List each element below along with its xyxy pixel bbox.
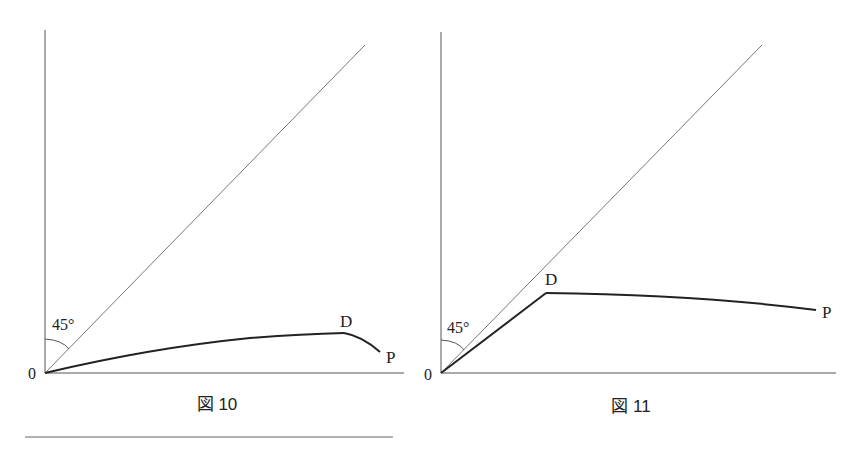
- curve-d-to-p: [344, 333, 380, 352]
- origin-label: 0: [28, 365, 36, 382]
- point-d-label: D: [545, 270, 557, 289]
- figure-caption: 図 10: [197, 395, 238, 414]
- figure-10: 0 45° D P 図 10: [28, 30, 404, 414]
- diagram-canvas: 0 45° D P 図 10 0 45° D P 図 11: [0, 0, 866, 449]
- angle-arc: [441, 340, 464, 350]
- curve-d-to-p: [546, 293, 816, 310]
- curve-0-to-d: [45, 333, 344, 373]
- diagonal-45-line: [441, 45, 762, 373]
- angle-label: 45°: [52, 316, 74, 333]
- figure-11: 0 45° D P 図 11: [424, 32, 836, 416]
- angle-arc: [45, 339, 69, 349]
- angle-label: 45°: [447, 319, 469, 336]
- figure-caption: 図 11: [611, 397, 650, 416]
- point-p-label: P: [822, 303, 831, 322]
- diagonal-45-line: [45, 45, 365, 373]
- point-p-label: P: [386, 348, 395, 367]
- point-d-label: D: [340, 312, 352, 331]
- origin-label: 0: [424, 366, 432, 383]
